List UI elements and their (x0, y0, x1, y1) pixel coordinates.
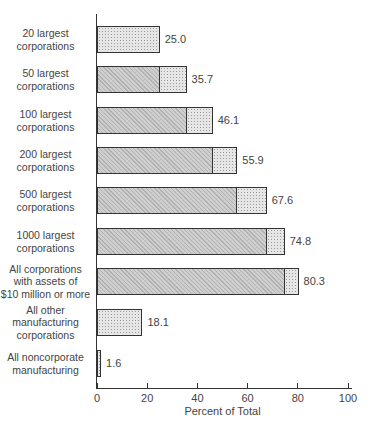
category-label-line: manufacturing (0, 364, 93, 377)
category-label-line: All corporations (0, 263, 93, 276)
bar-segment-cumulative (97, 66, 160, 93)
bar-value-label: 55.9 (242, 154, 263, 166)
x-axis-tick (297, 383, 298, 388)
category-label-line: All noncorporate (0, 351, 93, 364)
category-label: 50 largestcorporations (0, 67, 93, 92)
category-label: 20 largestcorporations (0, 27, 93, 52)
category-label-line: 50 largest (0, 67, 93, 80)
bar-value-label: 80.3 (304, 275, 325, 287)
bar-segment-incremental (236, 187, 266, 214)
category-label-line: 500 largest (0, 188, 93, 201)
category-label-line: manufacturing (0, 316, 93, 329)
category-label-line: corporations (0, 329, 93, 342)
bar-value-label: 46.1 (218, 114, 239, 126)
bar-value-label: 1.6 (106, 357, 121, 369)
x-axis-tick-label: 40 (182, 392, 212, 404)
x-axis-tick-label: 0 (82, 392, 112, 404)
bar-segment-incremental (266, 228, 285, 255)
x-axis-tick-label: 60 (233, 392, 263, 404)
category-label: 100 largestcorporations (0, 108, 93, 133)
category-label-line: 20 largest (0, 27, 93, 40)
bar-value-label: 74.8 (290, 235, 311, 247)
x-axis-tick (147, 383, 148, 388)
category-label: All noncorporatemanufacturing (0, 351, 93, 376)
category-label-line: corporations (0, 242, 93, 255)
bar-segment-cumulative (97, 228, 267, 255)
category-label-line: corporations (0, 80, 93, 93)
category-label: 500 largestcorporations (0, 188, 93, 213)
category-label-line: with assets of (0, 275, 93, 288)
x-axis-tick-label: 20 (132, 392, 162, 404)
x-axis-tick (197, 383, 198, 388)
bar-value-label: 35.7 (192, 73, 213, 85)
category-label-line: corporations (0, 201, 93, 214)
x-axis-tick-label: 80 (283, 392, 313, 404)
bar-segment-incremental (284, 268, 299, 295)
bar-segment-cumulative (97, 107, 187, 134)
bar-value-label: 18.1 (147, 316, 168, 328)
category-label-line: 1000 largest (0, 229, 93, 242)
bar-segment-incremental (97, 26, 160, 53)
x-axis-tick-label: 100 (333, 392, 363, 404)
category-label: 200 largestcorporations (0, 148, 93, 173)
bar-segment-incremental (159, 66, 187, 93)
category-label: All othermanufacturingcorporations (0, 304, 93, 342)
bar-segment-cumulative (97, 187, 237, 214)
category-label-line: corporations (0, 121, 93, 134)
category-label: 1000 largestcorporations (0, 229, 93, 254)
category-label-line: corporations (0, 161, 93, 174)
category-label-line: All other (0, 304, 93, 317)
bar-segment-incremental (97, 350, 101, 377)
category-label-line: corporations (0, 40, 93, 53)
category-label-line: 200 largest (0, 148, 93, 161)
horizontal-bar-chart: Percent of Total 20 largestcorporations2… (0, 0, 373, 423)
bar-value-label: 67.6 (272, 194, 293, 206)
bar-segment-incremental (186, 107, 213, 134)
category-label: All corporationswith assets of$10 millio… (0, 263, 93, 301)
bar-segment-incremental (97, 309, 142, 336)
x-axis-tick (97, 383, 98, 388)
x-axis-tick (247, 383, 248, 388)
bar-segment-cumulative (97, 147, 213, 174)
x-axis-tick (348, 383, 349, 388)
category-label-line: 100 largest (0, 108, 93, 121)
bar-segment-cumulative (97, 268, 285, 295)
x-axis-line (96, 388, 352, 389)
x-axis-title: Percent of Total (97, 405, 348, 417)
bar-value-label: 25.0 (165, 33, 186, 45)
category-label-line: $10 million or more (0, 288, 93, 301)
bar-segment-incremental (212, 147, 238, 174)
